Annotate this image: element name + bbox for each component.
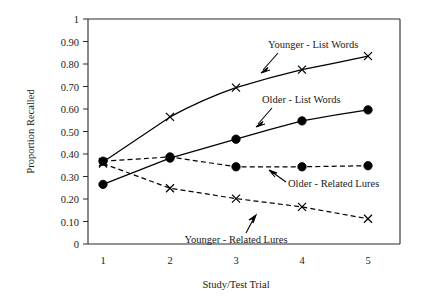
axes-group: [88, 19, 400, 244]
series-line: [103, 164, 368, 219]
y-tick-label: 1: [74, 14, 79, 25]
data-point-marker: [298, 117, 306, 125]
annotation-label: Younger - List Words: [268, 39, 358, 50]
data-point-marker: [232, 84, 240, 92]
x-tick-label: 2: [167, 255, 172, 266]
y-tick-label: 0.70: [61, 82, 79, 93]
y-tick-label: 0.40: [61, 149, 79, 160]
annotation-older-related-lures: Older - Related Lures: [269, 170, 379, 189]
y-tick-label: 0.50: [61, 127, 79, 138]
annotation-arrow-line: [258, 108, 272, 124]
y-tick-label: 0.10: [61, 217, 79, 228]
series-older-related-lures: [99, 153, 372, 171]
series-younger-list-words: [99, 52, 372, 166]
data-point-marker: [232, 163, 240, 171]
series-older-list-words: [99, 106, 372, 189]
y-tick-label: 0.90: [61, 37, 79, 48]
annotation-arrow-head: [261, 68, 270, 74]
annotation-arrow-head: [256, 122, 265, 128]
annotation-label: Older - Related Lures: [288, 178, 379, 189]
data-point-marker: [364, 215, 372, 223]
data-point-marker: [166, 153, 174, 161]
data-point-marker: [364, 162, 372, 170]
annotation-arrow-line: [263, 53, 278, 70]
x-tick-labels: 1 2 3 4 5: [100, 255, 370, 266]
annotation-label: Younger - Related Lures: [184, 234, 287, 245]
series-line: [103, 110, 368, 184]
chart-canvas: 1 0.90 0.80 0.70 0.60 0.50 0.40 0.30 0.2…: [0, 0, 424, 298]
series-line: [103, 56, 368, 162]
y-tick-label: 0.80: [61, 59, 79, 70]
data-point-marker: [232, 135, 240, 143]
x-tick-label: 5: [365, 255, 370, 266]
data-point-marker: [364, 106, 372, 114]
y-tick-labels: 1 0.90 0.80 0.70 0.60 0.50 0.40 0.30 0.2…: [61, 14, 79, 250]
y-tick-label: 0.60: [61, 104, 79, 115]
annotation-arrow-head: [249, 215, 256, 223]
y-tick-label: 0: [74, 239, 79, 250]
data-point-marker: [99, 180, 107, 188]
x-axis-title: Study/Test Trial: [202, 279, 269, 290]
y-tick-label: 0.20: [61, 194, 79, 205]
data-point-marker: [298, 163, 306, 171]
annotation-label: Older - List Words: [262, 94, 341, 105]
annotation-arrow-head: [269, 170, 277, 177]
y-axis-title: Proportion Recalled: [25, 89, 36, 174]
annotation-younger-related-lures: Younger - Related Lures: [184, 215, 287, 245]
x-tick-label: 4: [299, 255, 305, 266]
y-tick-label: 0.30: [61, 172, 79, 183]
x-tick-label: 1: [100, 255, 105, 266]
y-tick-marks: [83, 19, 88, 244]
x-tick-label: 3: [233, 255, 238, 266]
line-chart-figure: 1 0.90 0.80 0.70 0.60 0.50 0.40 0.30 0.2…: [0, 0, 424, 298]
data-point-marker: [166, 113, 174, 121]
